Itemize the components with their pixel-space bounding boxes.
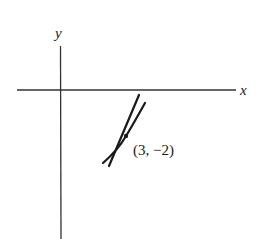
tangent-diagram: x y (3, −2) [0,0,267,239]
x-axis-label: x [239,82,247,98]
point-label: (3, −2) [133,142,174,159]
tangent-point-marker [124,134,128,138]
y-axis-label: y [53,25,62,41]
y-axis [61,46,62,239]
